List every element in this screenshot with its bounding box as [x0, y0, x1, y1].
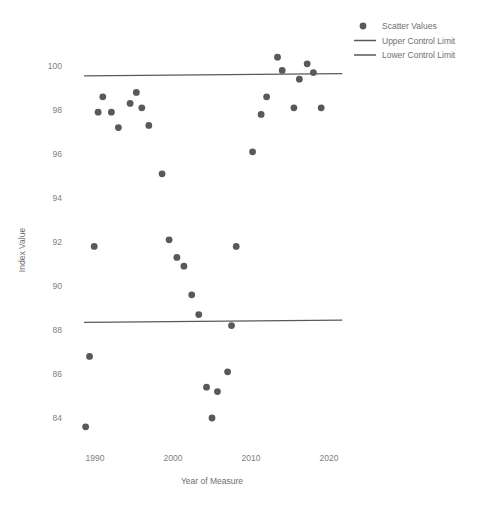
scatter-point — [209, 415, 216, 422]
scatter-point — [258, 111, 265, 118]
x-tick-label: 2010 — [242, 453, 261, 463]
scatter-point — [82, 423, 89, 430]
scatter-point — [188, 291, 195, 298]
scatter-point — [133, 89, 140, 96]
scatter-point — [95, 109, 102, 116]
control-limit-lines — [84, 74, 342, 323]
scatter-point — [228, 322, 235, 329]
x-axis-title: Year of Measure — [181, 476, 243, 486]
x-tick-label: 2000 — [164, 453, 183, 463]
y-axis-tick-labels: 1009896949290888684 — [48, 61, 62, 423]
legend-label: Upper Control Limit — [382, 36, 456, 46]
y-tick-label: 96 — [53, 149, 63, 159]
scatter-point — [127, 100, 134, 107]
scatter-point — [108, 109, 115, 116]
scatter-points — [82, 54, 324, 430]
y-tick-label: 90 — [53, 281, 63, 291]
scatter-point — [318, 104, 325, 111]
scatter-point — [263, 93, 270, 100]
scatter-point — [203, 384, 210, 391]
scatter-point — [296, 76, 303, 83]
scatter-point — [99, 93, 106, 100]
y-tick-label: 88 — [53, 325, 63, 335]
legend-label: Scatter Values — [382, 21, 437, 31]
scatter-point — [279, 67, 286, 74]
scatter-point — [166, 236, 173, 243]
scatter-point — [310, 69, 317, 76]
scatter-point — [181, 263, 188, 270]
scatter-point — [224, 368, 231, 375]
control-limit-line — [84, 74, 342, 76]
y-tick-label: 84 — [53, 413, 63, 423]
x-axis-tick-labels: 1990200020102020 — [86, 453, 339, 463]
plot-area: 1009896949290888684 1990200020102020 Sca… — [0, 0, 482, 505]
scatter-point — [195, 311, 202, 318]
scatter-point — [304, 60, 311, 67]
x-tick-label: 2020 — [320, 453, 339, 463]
y-tick-label: 100 — [48, 61, 62, 71]
scatter-point — [159, 170, 166, 177]
scatter-point — [115, 124, 122, 131]
scatter-point — [145, 122, 152, 129]
y-tick-label: 86 — [53, 369, 63, 379]
scatter-point — [91, 243, 98, 250]
y-tick-label: 92 — [53, 237, 63, 247]
chart-legend: Scatter ValuesUpper Control LimitLower C… — [354, 21, 456, 60]
scatter-point — [174, 254, 181, 261]
scatter-point — [291, 104, 298, 111]
scatter-point — [274, 54, 281, 61]
scatter-point — [86, 353, 93, 360]
scatter-point — [214, 388, 221, 395]
control-limit-line — [84, 320, 342, 322]
scatter-point — [249, 148, 256, 155]
y-tick-label: 94 — [53, 193, 63, 203]
y-tick-label: 98 — [53, 105, 63, 115]
legend-marker-icon — [360, 23, 367, 30]
y-axis-title: Index Value — [17, 228, 27, 273]
legend-label: Lower Control Limit — [382, 50, 456, 60]
scatter-point — [233, 243, 240, 250]
scatter-point — [138, 104, 145, 111]
x-tick-label: 1990 — [86, 453, 105, 463]
scatter-chart: 1009896949290888684 1990200020102020 Sca… — [0, 0, 482, 505]
